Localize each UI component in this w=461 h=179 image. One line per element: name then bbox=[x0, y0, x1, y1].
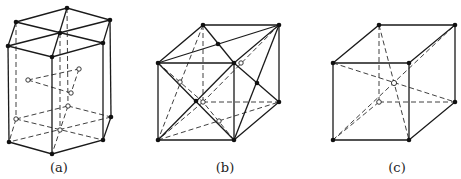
panel-b-label: (b) bbox=[216, 160, 234, 175]
panel-a-hcp-cell bbox=[6, 6, 114, 157]
panel-b-fcc-cell bbox=[156, 23, 282, 143]
panel-a-label: (a) bbox=[50, 160, 68, 175]
panel-c-bcc-cell bbox=[331, 23, 458, 143]
hcp-atoms bbox=[6, 6, 114, 157]
panel-c-label: (c) bbox=[388, 160, 405, 175]
crystal-structures-diagram bbox=[0, 0, 461, 179]
